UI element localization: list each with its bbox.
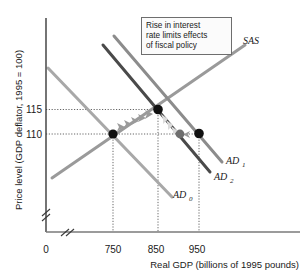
ad2-label: AD 2: [213, 171, 234, 185]
ad2-label-subscript: 2: [230, 177, 234, 185]
x-tick-750: 750: [105, 244, 122, 255]
x-origin-label: 0: [43, 244, 49, 255]
x-tick-850: 850: [148, 244, 165, 255]
y-tick-110: 110: [26, 129, 42, 140]
point-initial-equilibrium: [108, 129, 117, 138]
ad0-label-subscript: 0: [189, 195, 193, 203]
sas-label-text: SAS: [243, 35, 259, 46]
chart-figure: 115 110 0 750 850 950 Price level (GDP d…: [0, 0, 305, 271]
y-tick-115: 115: [26, 104, 42, 115]
annotation-line-1: Rise in interest: [146, 21, 227, 31]
ad1-label: AD 1: [225, 155, 246, 169]
ad1-label-text: AD: [225, 155, 240, 166]
point-final-equilibrium: [176, 130, 185, 139]
point-ad1-at-110: [194, 129, 204, 139]
x-axis-title: Real GDP (billions of 1995 pounds): [150, 259, 299, 270]
x-tick-950: 950: [189, 244, 206, 255]
annotation-line-2: rate limits effects: [146, 31, 227, 41]
arrow-chain-down-right: [161, 114, 178, 135]
y-axis-title: Price level (GDP deflator, 1995 = 100): [13, 50, 24, 210]
ad1-label-subscript: 1: [242, 161, 246, 169]
sas-curve: [52, 45, 245, 178]
ad0-label-text: AD: [172, 189, 187, 200]
annotation-line-3: of fiscal policy: [146, 41, 227, 51]
ad0-label: AD 0: [172, 189, 193, 203]
sas-label: SAS: [243, 35, 259, 46]
annotation-textbox: Rise in interest rate limits effects of …: [141, 17, 232, 55]
point-ad1-sas-intersection: [153, 105, 163, 115]
ad2-label-text: AD: [213, 171, 228, 182]
arrow-chain-up-right: [117, 110, 153, 131]
